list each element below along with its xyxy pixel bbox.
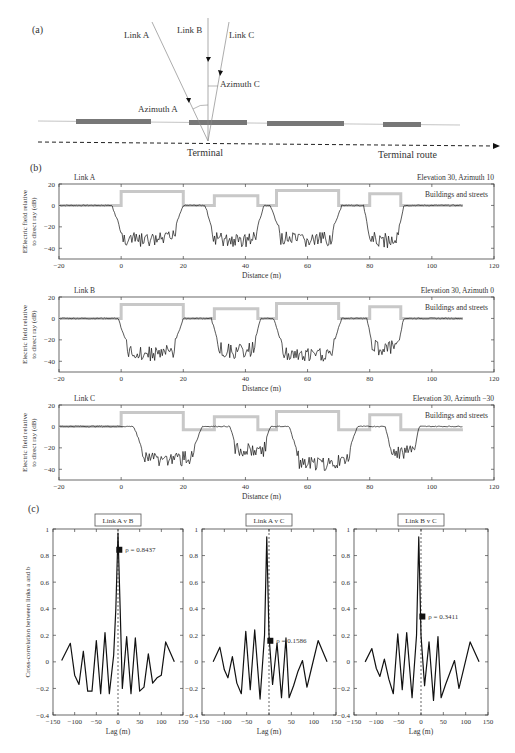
x-tick-label: 40 <box>242 483 250 491</box>
legend-label: Buildings and streets <box>425 303 488 312</box>
x-tick-label: 120 <box>489 375 500 383</box>
building-block <box>383 122 421 127</box>
x-axis-label: Lag (m) <box>257 727 282 736</box>
plot-title: Link B <box>74 286 95 295</box>
building-block <box>189 120 247 125</box>
correlation-plot-b-v-c: −150−100−50050100150−0.4−0.200.20.40.60.… <box>337 514 493 736</box>
x-tick-label: 100 <box>427 483 438 491</box>
y-tick-label: −0.4 <box>337 712 350 720</box>
y-tick-label: −40 <box>44 466 55 474</box>
y-tick-label: −40 <box>44 358 55 366</box>
y-tick-label: 0 <box>52 423 56 431</box>
x-tick-label: −20 <box>54 483 65 491</box>
x-tick-label: 0 <box>119 262 123 270</box>
y-tick-label: −20 <box>44 444 55 452</box>
y-tick-label: 1 <box>195 526 199 534</box>
arrow-icon <box>206 57 211 62</box>
y-tick-label: −0.2 <box>36 685 49 693</box>
x-tick-label: 0 <box>419 718 423 726</box>
rho-label: ρ = 0.8437 <box>125 546 156 554</box>
figure: (a) Link A Link B Link C Azimuth C Azimu… <box>0 0 515 753</box>
x-tick-label: 20 <box>180 262 188 270</box>
arrow-icon <box>186 98 191 103</box>
y-tick-label: 0 <box>52 202 56 210</box>
panel-a-diagram: (a) Link A Link B Link C Azimuth C Azimu… <box>32 18 500 160</box>
y-tick-label: −0.4 <box>36 712 49 720</box>
plot-title: Link A v C <box>254 517 285 525</box>
field-signal-line <box>59 318 462 362</box>
x-tick-label: 60 <box>304 483 312 491</box>
panel-label-b: (b) <box>30 162 42 174</box>
x-tick-label: 50 <box>288 718 296 726</box>
y-tick-label: 20 <box>48 294 56 302</box>
y-tick-label: −40 <box>44 245 55 253</box>
azimuth-a-arc <box>193 105 208 109</box>
plot-subtitle: Elevation 30, Azimuth 10 <box>417 173 494 182</box>
x-tick-label: −20 <box>54 262 65 270</box>
x-tick-label: 150 <box>483 718 494 726</box>
x-tick-label: 100 <box>427 262 438 270</box>
x-axis-label: Lag (m) <box>106 727 131 736</box>
x-tick-label: 120 <box>489 483 500 491</box>
link-a-label: Link A <box>124 30 150 40</box>
x-tick-label: 20 <box>180 483 188 491</box>
y-tick-label: −0.4 <box>185 712 198 720</box>
field-plot-link-c: −20020406080100120−40−20020Link CElevati… <box>21 394 500 501</box>
y-tick-label: 0 <box>195 658 199 666</box>
x-tick-label: 100 <box>308 718 319 726</box>
x-axis-label: Distance (m) <box>242 384 281 393</box>
x-tick-label: 20 <box>180 375 188 383</box>
plot-title: Link A <box>74 173 96 182</box>
x-tick-label: 40 <box>242 375 250 383</box>
x-tick-label: −50 <box>91 718 102 726</box>
link-a-ray <box>152 22 208 141</box>
y-tick-label: 0.2 <box>341 632 350 640</box>
y-tick-label: 0.2 <box>40 632 49 640</box>
y-tick-label: 0.4 <box>341 605 350 613</box>
x-axis-label: Distance (m) <box>242 492 281 501</box>
field-signal-line <box>59 205 462 248</box>
y-tick-label: 0.8 <box>341 552 350 560</box>
x-tick-label: 0 <box>267 718 271 726</box>
x-tick-label: 100 <box>427 375 438 383</box>
y-tick-label: 0.2 <box>189 632 198 640</box>
x-tick-label: 80 <box>366 375 374 383</box>
y-tick-label: −0.2 <box>185 685 198 693</box>
building-block <box>76 119 151 124</box>
x-tick-label: −50 <box>393 718 404 726</box>
buildings-profile <box>59 190 463 205</box>
azimuth-a-label: Azimuth A <box>138 104 178 114</box>
y-tick-label: −20 <box>44 336 55 344</box>
link-b-label: Link B <box>177 25 202 35</box>
x-tick-label: −100 <box>67 718 82 726</box>
arrow-icon <box>218 70 223 76</box>
correlation-plot-a-v-c: −150−100−50050100150−0.4−0.200.20.40.60.… <box>185 514 341 736</box>
x-tick-label: 120 <box>489 262 500 270</box>
x-tick-label: 40 <box>242 262 250 270</box>
x-axis-label: Distance (m) <box>242 271 281 280</box>
plot-title: Link B v C <box>405 517 437 525</box>
legend-label: Buildings and streets <box>425 190 488 199</box>
panel-label-a: (a) <box>32 24 43 36</box>
y-tick-label: 0 <box>46 658 50 666</box>
y-tick-label: −0.2 <box>337 685 350 693</box>
x-tick-label: 50 <box>136 718 144 726</box>
y-tick-label: 0.6 <box>40 579 49 587</box>
terminal-route-label: Terminal route <box>378 149 438 160</box>
plot-title: Link A v B <box>103 517 134 525</box>
y-axis-label: Cross-correlation between links a and b <box>24 566 32 677</box>
x-tick-label: −100 <box>369 718 384 726</box>
y-tick-label: 0 <box>347 658 351 666</box>
panel-label-c: (c) <box>28 503 39 515</box>
legend-label: Buildings and streets <box>425 411 488 420</box>
x-tick-label: 100 <box>156 718 167 726</box>
y-tick-label: 20 <box>48 402 56 410</box>
y-tick-label: −20 <box>44 223 55 231</box>
y-tick-label: 0 <box>52 315 56 323</box>
building-block <box>267 121 344 126</box>
plot-subtitle: Elevation 30, Azimuth 0 <box>421 286 495 295</box>
rho-label: ρ = 0.1586 <box>276 637 307 645</box>
correlation-plot-a-v-b: −150−100−50050100150−0.4−0.200.20.40.60.… <box>24 514 189 736</box>
x-tick-label: 100 <box>460 718 471 726</box>
x-tick-label: 0 <box>119 375 123 383</box>
